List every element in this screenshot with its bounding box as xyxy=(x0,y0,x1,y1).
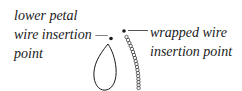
petal-insertion-point-dot xyxy=(109,37,113,41)
diagram-drawing xyxy=(0,0,242,91)
petal-outline xyxy=(94,44,116,90)
wrapped-wire-bead-chain xyxy=(125,35,141,89)
wrapped-wire-insertion-point-dot xyxy=(122,29,126,33)
